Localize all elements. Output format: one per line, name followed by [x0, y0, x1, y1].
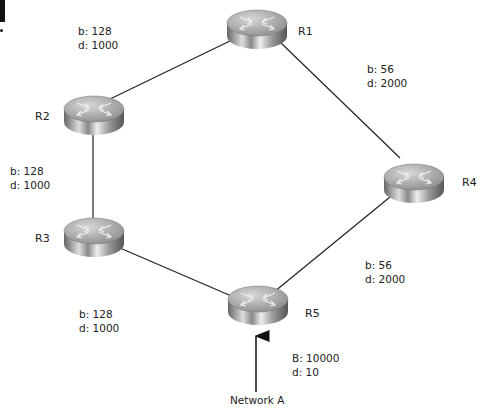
router-r4[interactable] — [383, 162, 445, 206]
router-r2[interactable] — [63, 94, 125, 138]
router-r1[interactable] — [226, 8, 288, 52]
router-icon — [63, 94, 125, 138]
metric-network-a: B: 10000 d: 10 — [292, 351, 339, 379]
delay-label: d: 2000 — [367, 76, 407, 90]
metric-r3-r5: b: 128 d: 1000 — [79, 307, 119, 335]
router-icon — [226, 8, 288, 52]
router-icon — [227, 284, 289, 328]
bandwidth-label: B: 10000 — [292, 351, 339, 365]
bandwidth-label: b: 128 — [10, 164, 50, 178]
router-label-r5: R5 — [305, 307, 320, 320]
metric-r1-r4: b: 56 d: 2000 — [367, 62, 407, 90]
network-a-label: Network A — [230, 393, 284, 407]
bandwidth-label: b: 128 — [79, 307, 119, 321]
metric-r2-r1: b: 128 d: 1000 — [78, 24, 118, 52]
bandwidth-label: b: 56 — [365, 258, 405, 272]
router-label-r4: R4 — [462, 176, 477, 189]
link-r3-r5 — [120, 248, 236, 298]
link-r2-r1 — [108, 40, 232, 100]
metric-r5-r4: b: 56 d: 2000 — [365, 258, 405, 286]
metric-r2-r3: b: 128 d: 1000 — [10, 164, 50, 192]
router-label-r2: R2 — [35, 110, 50, 123]
router-icon — [383, 162, 445, 206]
router-icon — [63, 216, 125, 260]
delay-label: d: 1000 — [78, 38, 118, 52]
router-label-r1: R1 — [298, 25, 313, 38]
router-r3[interactable] — [63, 216, 125, 260]
bandwidth-label: b: 128 — [78, 24, 118, 38]
delay-label: d: 10 — [292, 365, 339, 379]
bandwidth-label: b: 56 — [367, 62, 407, 76]
delay-label: d: 1000 — [79, 321, 119, 335]
link-r1-r4 — [280, 42, 400, 158]
router-r5[interactable] — [227, 284, 289, 328]
delay-label: d: 1000 — [10, 178, 50, 192]
delay-label: d: 2000 — [365, 272, 405, 286]
router-label-r3: R3 — [35, 232, 50, 245]
